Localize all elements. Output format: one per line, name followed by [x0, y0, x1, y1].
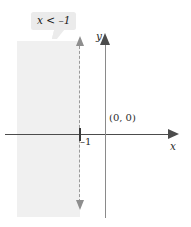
inequality-graph-figure: x < –1 y x (0, 0) –1 [0, 0, 191, 227]
x-axis-label: x [170, 140, 176, 152]
boundary-arrow-up-icon [76, 36, 84, 46]
y-axis-label: y [96, 30, 102, 42]
x-axis-arrow-icon [168, 129, 179, 139]
negative-one-tick-label: –1 [80, 136, 91, 147]
origin-point-label: (0, 0) [109, 112, 136, 123]
shaded-solution-region [17, 41, 80, 217]
boundary-dashed-line [79, 46, 80, 202]
boundary-arrow-down-icon [76, 200, 84, 210]
callout-tail-icon [52, 30, 64, 39]
y-axis-line [105, 44, 106, 218]
inequality-callout-label: x < –1 [31, 12, 76, 30]
